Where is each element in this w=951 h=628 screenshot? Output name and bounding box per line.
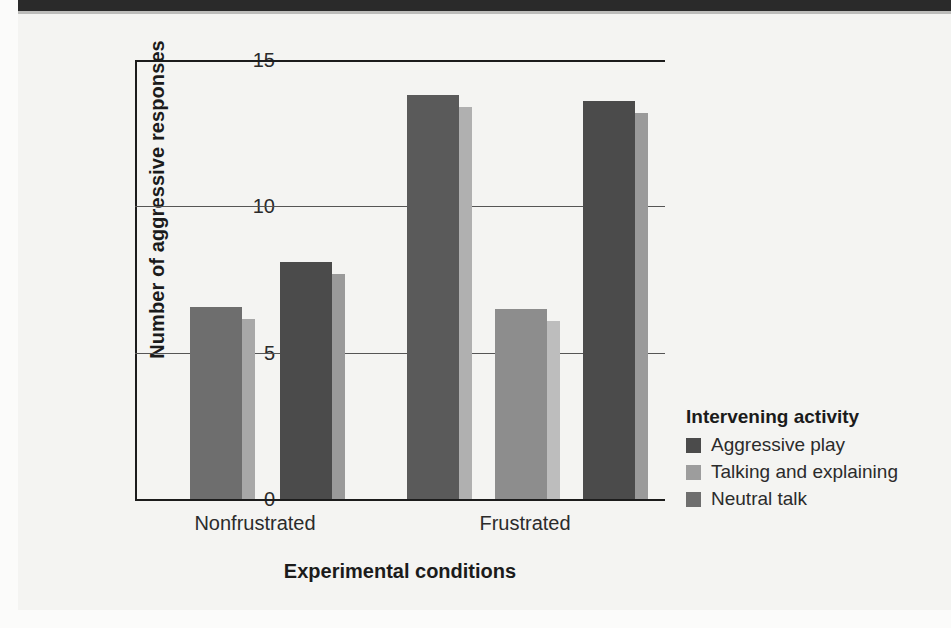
bar-front-face <box>280 262 332 499</box>
legend: Intervening activity Aggressive playTalk… <box>686 406 936 516</box>
legend-item-label: Aggressive play <box>711 435 845 456</box>
legend-swatch-icon <box>686 492 701 507</box>
legend-item-3: Neutral talk <box>686 489 936 510</box>
x-axis-title: Experimental conditions <box>135 560 665 583</box>
bar-2 <box>280 262 332 499</box>
legend-item-1: Aggressive play <box>686 435 936 456</box>
legend-item-2: Talking and explaining <box>686 462 936 483</box>
legend-item-label: Talking and explaining <box>711 462 898 483</box>
bar-3 <box>407 95 459 499</box>
bar-side-face <box>332 274 345 499</box>
bar-front-face <box>583 101 635 499</box>
bar-side-face <box>459 107 472 499</box>
bar-side-face <box>635 113 648 499</box>
bar-4 <box>495 309 547 499</box>
bar-front-face <box>190 307 242 499</box>
legend-rows: Aggressive playTalking and explainingNeu… <box>686 435 936 510</box>
x-axis-category-frustrated: Frustrated <box>415 512 635 535</box>
y-axis-line <box>135 60 137 501</box>
bar-5 <box>583 101 635 499</box>
legend-title: Intervening activity <box>686 406 936 428</box>
bar-front-face <box>407 95 459 499</box>
x-axis-category-nonfrustrated: Nonfrustrated <box>145 512 365 535</box>
bar-side-face <box>242 319 255 499</box>
bar-1 <box>190 307 242 499</box>
plot-area: Number of aggressive responses Nonfrustr… <box>135 60 665 500</box>
x-axis-line <box>135 499 665 501</box>
legend-swatch-icon <box>686 465 701 480</box>
y-axis-title: Number of aggressive responses <box>146 30 169 370</box>
figure-page: 15 10 5 0 Number of aggressive responses… <box>0 0 951 628</box>
bar-chart: 15 10 5 0 Number of aggressive responses… <box>0 0 951 628</box>
legend-item-label: Neutral talk <box>711 489 807 510</box>
bar-front-face <box>495 309 547 499</box>
gridline-15 <box>135 60 665 62</box>
legend-swatch-icon <box>686 438 701 453</box>
bar-side-face <box>547 321 560 499</box>
